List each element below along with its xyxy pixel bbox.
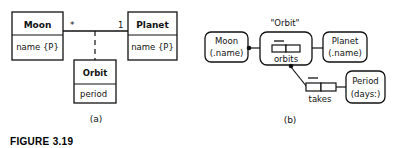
role-box-1 bbox=[272, 45, 286, 52]
diagram-a: Moon name {P} * 1 Planet name {P} Orbit … bbox=[12, 12, 177, 124]
object-period-refmode: (days:) bbox=[351, 89, 381, 99]
object-period: Period (days:) bbox=[346, 71, 385, 103]
object-planet: Planet (.name) bbox=[323, 32, 367, 62]
figure-canvas: Moon name {P} * 1 Planet name {P} Orbit … bbox=[0, 0, 398, 148]
role-box-2 bbox=[286, 45, 300, 52]
multiplicity-moon: * bbox=[70, 20, 75, 30]
objectified-title: "Orbit" bbox=[270, 18, 299, 28]
subfigure-label-a: (a) bbox=[90, 114, 103, 124]
multiplicity-planet: 1 bbox=[118, 20, 123, 30]
class-planet: Planet name {P} bbox=[128, 12, 177, 60]
object-planet-refmode: (.name) bbox=[328, 48, 361, 58]
class-planet-attribute: name {P} bbox=[131, 42, 174, 52]
diagram-b: Moon (.name) "Orbit" orbits Planet (.nam… bbox=[205, 18, 385, 125]
figure-caption: FIGURE 3.19 bbox=[10, 136, 73, 147]
object-moon-name: Moon bbox=[215, 36, 238, 46]
class-moon: Moon name {P} bbox=[12, 12, 63, 60]
mandatory-dot-orbit bbox=[289, 64, 294, 69]
class-moon-name: Moon bbox=[24, 20, 52, 30]
subfigure-label-b: (b) bbox=[284, 115, 297, 125]
association-class-name: Orbit bbox=[83, 68, 107, 78]
role-box-3 bbox=[306, 83, 321, 91]
class-moon-attribute: name {P} bbox=[16, 42, 59, 52]
association-class-attribute: period bbox=[80, 89, 107, 99]
object-period-name: Period bbox=[352, 76, 379, 86]
role-box-4 bbox=[321, 83, 336, 91]
class-planet-name: Planet bbox=[136, 20, 169, 30]
fact-takes: takes bbox=[306, 78, 336, 104]
fact-takes-label: takes bbox=[309, 94, 332, 104]
fact-orbits-label: orbits bbox=[274, 54, 299, 64]
object-moon: Moon (.name) bbox=[205, 32, 248, 62]
link-orbit-takes bbox=[291, 67, 307, 87]
mandatory-dot-moon bbox=[247, 46, 252, 51]
association-class-orbit: Orbit period bbox=[74, 60, 116, 103]
objectified-orbit: orbits bbox=[260, 32, 312, 65]
object-moon-refmode: (.name) bbox=[210, 48, 243, 58]
object-planet-name: Planet bbox=[332, 36, 359, 46]
